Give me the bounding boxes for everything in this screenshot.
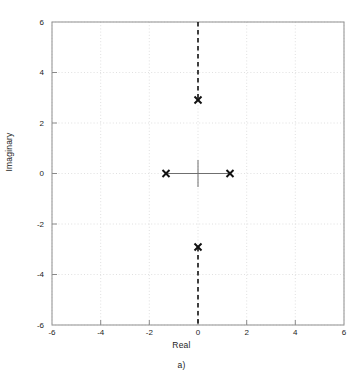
xtick-label-2: 2 bbox=[232, 328, 262, 337]
figure-container: -6 -4 -2 0 2 4 6 6 4 2 0 -2 -4 -6 Imagin… bbox=[0, 0, 363, 383]
y-axis-label: Imaginary bbox=[4, 132, 14, 171]
x-axis-label: Real bbox=[0, 340, 363, 350]
ytick-label-4: 4 bbox=[18, 68, 44, 77]
xtick-label-6: 6 bbox=[329, 328, 359, 337]
xtick-label-4: 4 bbox=[280, 328, 310, 337]
xtick-label-0: 0 bbox=[183, 328, 213, 337]
ytick-label--2: -2 bbox=[18, 220, 44, 229]
ytick-label--6: -6 bbox=[18, 321, 44, 330]
pole-zero-plot bbox=[0, 0, 363, 383]
figure-caption: a) bbox=[0, 360, 363, 370]
ytick-label--4: -4 bbox=[18, 270, 44, 279]
ytick-label-6: 6 bbox=[18, 18, 44, 27]
ytick-label-0: 0 bbox=[18, 169, 44, 178]
xtick-label--4: -4 bbox=[86, 328, 116, 337]
xtick-label--2: -2 bbox=[134, 328, 164, 337]
ytick-label-2: 2 bbox=[18, 119, 44, 128]
